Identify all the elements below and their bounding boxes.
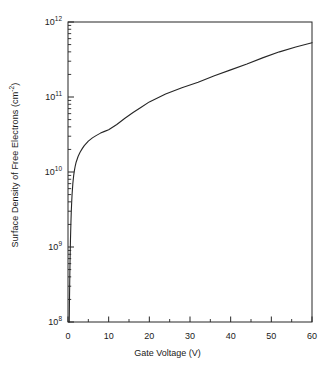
x-axis-ticks <box>68 317 312 323</box>
y-axis-ticks <box>68 22 74 322</box>
data-curve-surface-density <box>69 43 312 322</box>
plot-svg <box>0 0 335 373</box>
plot-frame <box>68 22 312 322</box>
figure-container: Surface Density of Free Electrons (cm-2)… <box>0 0 335 373</box>
